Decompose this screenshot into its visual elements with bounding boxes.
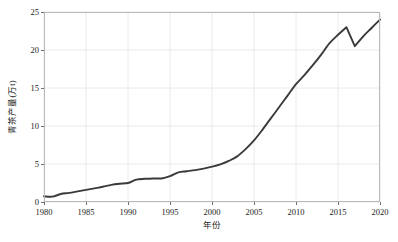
y-tick-label: 0: [20, 197, 39, 207]
y-tick-label: 15: [20, 83, 39, 93]
y-tick-mark: [41, 88, 44, 89]
series-path: [44, 20, 380, 197]
y-tick-label: 25: [20, 7, 39, 17]
y-tick-label: 5: [20, 159, 39, 169]
y-axis-title: 青茶产量(万t): [5, 80, 17, 133]
x-tick-mark: [338, 202, 339, 205]
y-tick-mark: [41, 164, 44, 165]
chart-figure: 1980198519901995200020052010201520200510…: [0, 0, 398, 242]
y-tick-mark: [41, 126, 44, 127]
x-tick-label: 1990: [120, 207, 137, 217]
x-tick-mark: [170, 202, 171, 205]
x-tick-label: 2000: [204, 207, 221, 217]
x-tick-mark: [380, 202, 381, 205]
x-tick-label: 1985: [78, 207, 95, 217]
x-tick-label: 2010: [288, 207, 305, 217]
x-tick-mark: [44, 202, 45, 205]
y-tick-mark: [41, 12, 44, 13]
y-tick-mark: [41, 202, 44, 203]
x-tick-label: 2020: [372, 207, 389, 217]
x-tick-mark: [86, 202, 87, 205]
y-tick-mark: [41, 50, 44, 51]
x-tick-label: 1980: [36, 207, 53, 217]
x-tick-label: 2015: [330, 207, 347, 217]
x-tick-mark: [212, 202, 213, 205]
x-tick-label: 2005: [246, 207, 263, 217]
y-tick-label: 10: [20, 121, 39, 131]
x-tick-mark: [254, 202, 255, 205]
x-tick-mark: [128, 202, 129, 205]
y-tick-label: 20: [20, 45, 39, 55]
x-tick-mark: [296, 202, 297, 205]
x-tick-label: 1995: [162, 207, 179, 217]
data-series-line: [44, 12, 380, 202]
plot-area: [44, 12, 380, 202]
x-axis-title: 年份: [203, 218, 221, 230]
